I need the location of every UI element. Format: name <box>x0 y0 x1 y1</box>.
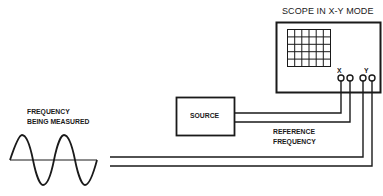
scope-box <box>277 23 381 93</box>
source-label: SOURCE <box>190 111 219 121</box>
y-label: Y <box>364 66 369 76</box>
measured-label-line1: FREQUENCY <box>27 107 70 117</box>
scope-screen-grid <box>288 30 331 67</box>
scope-label: SCOPE IN X-Y MODE <box>282 6 374 16</box>
x-connector-2 <box>347 75 353 81</box>
measured-label-line2: BEING MEASURED <box>27 117 89 127</box>
reference-label-line2: FREQUENCY <box>273 137 316 147</box>
reference-label-line1: REFERENCE <box>273 127 315 137</box>
diagram-canvas <box>0 0 383 196</box>
measured-wire-2 <box>110 81 372 166</box>
reference-wire-1 <box>235 81 342 113</box>
y-connector-2 <box>369 75 375 81</box>
x-label: X <box>337 66 342 76</box>
reference-wire-2 <box>235 81 351 122</box>
